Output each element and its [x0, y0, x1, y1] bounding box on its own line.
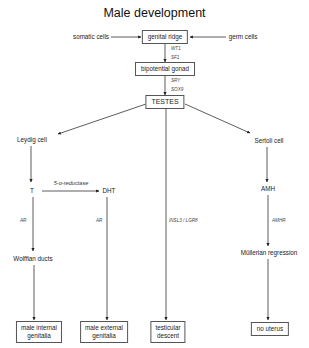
gene-label-insl3-lgr8: INSL3 / LGR8	[169, 218, 198, 223]
label-line-1: male external	[85, 324, 123, 332]
arrow-testes-to-leydig_cell	[58, 104, 146, 134]
node-no-uterus: no uterus	[251, 322, 289, 336]
diagram-title: Male development	[0, 6, 309, 20]
node-wolffian-ducts: Wolffian ducts	[13, 255, 52, 263]
node-testosterone: T	[30, 187, 34, 195]
node-mullerian-regression: Müllerian regression	[241, 249, 298, 257]
gene-label-sf1: SF1	[171, 55, 179, 60]
label-line-1: male internal	[21, 324, 57, 332]
node-testes: TESTES	[145, 95, 184, 109]
node-dht: DHT	[103, 187, 116, 195]
node-amh: AMH	[261, 185, 275, 193]
node-bipotential-gonad: bipotential gonad	[135, 62, 195, 76]
node-leydig-cell: Leydig cell	[17, 136, 47, 144]
gene-label-sry: SRY	[171, 78, 180, 83]
arrow-testes-to-sertoli_cell	[185, 104, 250, 133]
diagram-canvas: Male development somatic cells germ cell…	[0, 0, 309, 348]
label-line-2: descent	[155, 332, 180, 340]
gene-label-sox9: SOX9	[171, 87, 183, 92]
gene-label-wt1: WT1	[171, 46, 181, 51]
label-line-2: genitalia	[85, 332, 123, 340]
node-sertoli-cell: Sertoli cell	[254, 137, 283, 145]
label-line-1: testicular	[155, 324, 180, 332]
label-line-2: genitalia	[21, 332, 57, 340]
node-male-external-genitalia: male external genitalia	[80, 321, 128, 343]
enzyme-label-5-alpha-reductase: 5-α-reductase	[54, 180, 89, 186]
edges-layer	[0, 0, 309, 348]
node-somatic-cells: somatic cells	[73, 33, 109, 41]
gene-label-amhr: AMHR	[272, 218, 286, 223]
node-genital-ridge: genital ridge	[142, 30, 188, 44]
node-testicular-descent: testicular descent	[150, 321, 185, 343]
node-male-internal-genitalia: male internal genitalia	[16, 321, 62, 343]
gene-label-ar-left: AR	[20, 218, 26, 223]
node-germ-cells: germ cells	[229, 33, 258, 41]
gene-label-ar-right: AR	[96, 218, 102, 223]
